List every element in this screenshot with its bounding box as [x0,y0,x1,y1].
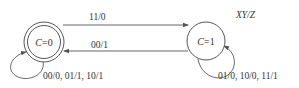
legend-label: XY/Z [235,10,256,20]
transition-label: 11/0 [89,12,106,22]
transition-label: 00/0, 01/1, 10/1 [43,71,103,81]
state-c0: C=0 [24,22,64,62]
transition-label: 00/1 [91,40,108,50]
transition-label: 01/0, 10/0, 11/1 [218,71,278,81]
state-c1: C=1 [187,22,225,60]
state-label: C=0 [35,37,52,48]
state-diagram: 11/0 00/1 00/0, 01/1, 10/1 01/0, 10/0, 1… [0,0,299,88]
transition-s1-to-s0: 00/1 [64,40,188,51]
state-label: C=1 [197,36,214,47]
transition-s0-to-s1: 11/0 [63,12,188,25]
